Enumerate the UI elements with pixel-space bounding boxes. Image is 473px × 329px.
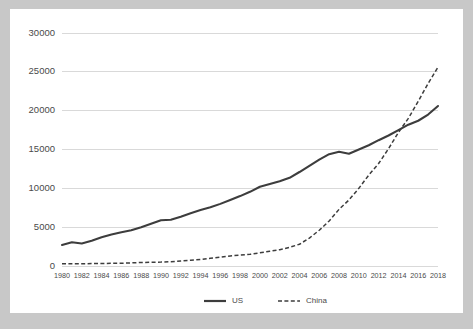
chart-legend[interactable]: USChina	[204, 296, 327, 305]
y-tick-label: 30000	[29, 27, 55, 38]
screenshot-root: 050001000015000200002500030000 198019821…	[0, 0, 473, 329]
x-tick-label: 2014	[390, 271, 406, 280]
x-tick-label: 1998	[232, 271, 248, 280]
x-tick-label: 2018	[430, 271, 446, 280]
x-tick-label: 1994	[193, 271, 209, 280]
y-axis-tick-labels: 050001000015000200002500030000	[29, 27, 55, 271]
x-tick-label: 1986	[113, 271, 129, 280]
x-tick-label: 1984	[94, 271, 110, 280]
y-tick-label: 15000	[29, 143, 55, 154]
x-tick-label: 1980	[54, 271, 70, 280]
chart-plot-area: 050001000015000200002500030000 198019821…	[10, 9, 463, 313]
y-tick-label: 0	[50, 260, 55, 271]
x-tick-label: 2008	[331, 271, 347, 280]
chart-card: 050001000015000200002500030000 198019821…	[10, 9, 463, 313]
x-tick-label: 1992	[173, 271, 189, 280]
y-tick-label: 25000	[29, 65, 55, 76]
x-tick-label: 1990	[153, 271, 169, 280]
series-line-us[interactable]	[62, 106, 438, 245]
x-tick-label: 2002	[272, 271, 288, 280]
x-tick-label: 2006	[311, 271, 327, 280]
y-tick-label: 5000	[34, 221, 55, 232]
x-tick-label: 2010	[351, 271, 367, 280]
legend-label-us[interactable]: US	[232, 296, 243, 305]
x-tick-label: 2000	[252, 271, 268, 280]
x-tick-label: 1996	[212, 271, 228, 280]
series-line-china[interactable]	[62, 67, 438, 264]
data-series-group	[62, 67, 438, 264]
x-tick-label: 2004	[291, 271, 307, 280]
x-tick-label: 1982	[74, 271, 90, 280]
y-tick-label: 10000	[29, 182, 55, 193]
gridlines-group	[62, 33, 438, 266]
legend-label-china[interactable]: China	[306, 296, 327, 305]
x-axis-tick-labels: 1980198219841986198819901992199419961998…	[54, 271, 446, 280]
x-tick-label: 1988	[133, 271, 149, 280]
line-chart[interactable]: 050001000015000200002500030000 198019821…	[10, 9, 463, 313]
x-tick-label: 2016	[410, 271, 426, 280]
y-tick-label: 20000	[29, 104, 55, 115]
x-tick-label: 2012	[371, 271, 387, 280]
